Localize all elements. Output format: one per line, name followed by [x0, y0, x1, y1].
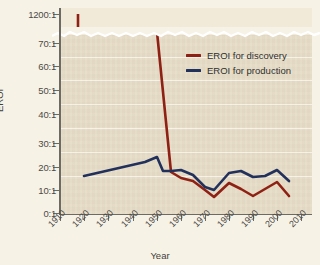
y-tick-label-10: 10:1	[0, 185, 56, 196]
legend-swatch-discovery	[186, 54, 201, 57]
production-line	[84, 157, 289, 190]
y-axis-line	[59, 8, 61, 214]
y-tick-label-60: 60:1	[0, 61, 56, 72]
y-tick-label-30: 30:1	[0, 138, 56, 149]
y-tick-label-50: 50:1	[0, 85, 56, 96]
legend-label-production: EROI for production	[207, 65, 291, 76]
legend-item-production: EROI for production	[186, 65, 291, 76]
legend-swatch-production	[186, 69, 201, 72]
y-tick-label-0: 0:1	[0, 208, 56, 219]
y-tick-label-20: 20:1	[0, 162, 56, 173]
eroi-chart: 1200:1 70:1 60:1 50:1 40:1 30:1 20:1 10:…	[0, 0, 320, 265]
chart-legend: EROI for discovery EROI for production	[186, 50, 291, 76]
y-tick-label-70: 70:1	[0, 38, 56, 49]
y-tick-label-40: 40:1	[0, 109, 56, 120]
y-tick-label-1200: 1200:1	[0, 9, 56, 20]
y-axis-title: EROI	[0, 89, 5, 112]
legend-item-discovery: EROI for discovery	[186, 50, 291, 61]
x-axis-title: Year	[0, 250, 320, 261]
legend-label-discovery: EROI for discovery	[207, 50, 287, 61]
